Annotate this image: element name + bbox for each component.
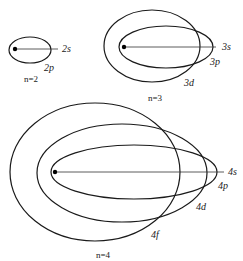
nucleus-dot bbox=[53, 170, 57, 174]
label-4f: 4f bbox=[151, 229, 160, 240]
nucleus-dot bbox=[122, 45, 126, 49]
orbit-3d bbox=[104, 10, 200, 82]
shell-label-n3: n=3 bbox=[148, 93, 163, 103]
nucleus-dot bbox=[13, 47, 17, 51]
label-3d: 3d bbox=[183, 77, 195, 88]
orbit-diagram: 2s 2p n=2 3s 3p 3d n=3 4s 4p 4d 4f n=4 bbox=[0, 0, 243, 261]
label-2s: 2s bbox=[62, 43, 71, 54]
shell-label-n4: n=4 bbox=[96, 250, 111, 260]
label-3s: 3s bbox=[221, 41, 231, 52]
orbit-4d bbox=[37, 124, 207, 222]
shell-n4-group: 4s 4p 4d 4f n=4 bbox=[10, 103, 237, 260]
label-2p: 2p bbox=[44, 62, 54, 73]
shell-n3-group: 3s 3p 3d n=3 bbox=[104, 10, 231, 103]
label-4p: 4p bbox=[218, 180, 228, 191]
shell-n2-group: 2s 2p n=2 bbox=[9, 37, 71, 84]
label-3p: 3p bbox=[209, 56, 220, 67]
label-4s: 4s bbox=[228, 166, 237, 177]
shell-label-n2: n=2 bbox=[24, 74, 38, 84]
label-4d: 4d bbox=[196, 201, 207, 212]
